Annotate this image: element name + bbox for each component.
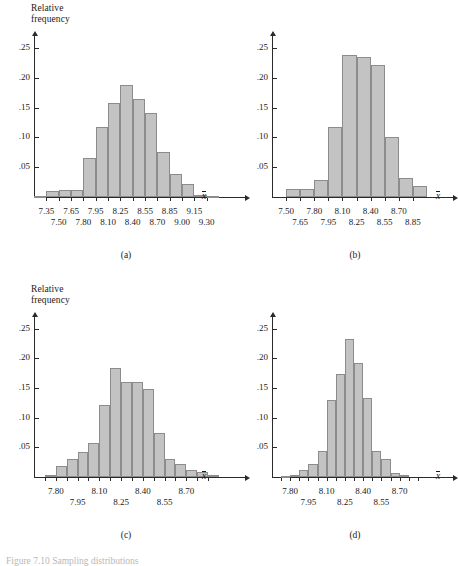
bar-a-14 bbox=[207, 196, 219, 198]
bar-d-10 bbox=[363, 398, 372, 477]
x-tick-b-1 bbox=[300, 198, 301, 201]
x-tick-a-11 bbox=[182, 198, 183, 201]
x-tick-c-8 bbox=[132, 478, 133, 481]
bar-c-14 bbox=[186, 470, 197, 477]
histogram-panel-b: .05.10.15.20.257.507.657.807.958.108.258… bbox=[224, 0, 447, 270]
bar-a-3 bbox=[71, 190, 83, 197]
x-bar-symbol-d: x bbox=[436, 471, 440, 482]
x-axis-variable-label-b: x bbox=[436, 191, 440, 202]
plot-area-b: .05.10.15.20.257.507.657.807.958.108.258… bbox=[224, 0, 447, 270]
x-axis-variable-label-c: x bbox=[202, 471, 206, 482]
bar-d-3 bbox=[299, 470, 308, 477]
y-tick-c-2 bbox=[35, 388, 39, 389]
bar-c-9 bbox=[132, 382, 143, 477]
x-tick-a-7 bbox=[133, 198, 134, 201]
bar-a-2 bbox=[59, 190, 71, 197]
y-tick-label-a-0: .05 bbox=[8, 161, 30, 171]
bar-c-6 bbox=[99, 405, 110, 477]
x-bar-symbol-b: x bbox=[436, 191, 440, 202]
plot-area-c: .05.10.15.20.257.807.958.108.258.408.558… bbox=[0, 281, 224, 543]
x-axis-arrow-b bbox=[453, 195, 458, 201]
x-tick-a-10 bbox=[170, 198, 171, 201]
x-tick-label-top-a-6: 9.15 bbox=[174, 206, 214, 216]
x-tick-label-top-c-2: 8.40 bbox=[123, 486, 163, 496]
plot-area-d: .05.10.15.20.257.807.958.108.258.408.558… bbox=[224, 281, 447, 543]
x-tick-c-3 bbox=[78, 478, 79, 481]
panel-caption-a: (a) bbox=[96, 250, 156, 260]
x-axis-variable-label-a: x bbox=[202, 191, 206, 202]
x-tick-a-5 bbox=[108, 198, 109, 201]
bar-c-5 bbox=[88, 443, 99, 477]
x-tick-a-2 bbox=[71, 198, 72, 201]
bar-a-0 bbox=[34, 196, 46, 198]
bar-d-6 bbox=[327, 400, 336, 477]
bar-a-6 bbox=[108, 103, 120, 197]
bar-c-12 bbox=[165, 459, 176, 477]
panel-caption-b: (b) bbox=[325, 250, 385, 260]
x-tick-b-7 bbox=[385, 198, 386, 201]
x-tick-c-1 bbox=[56, 478, 57, 481]
y-tick-a-0 bbox=[35, 167, 39, 168]
bar-b-9 bbox=[399, 178, 413, 197]
x-tick-d-0 bbox=[281, 478, 282, 481]
y-tick-a-2 bbox=[35, 108, 39, 109]
y-tick-c-4 bbox=[35, 329, 39, 330]
x-tick-a-1 bbox=[59, 198, 60, 201]
x-tick-a-8 bbox=[145, 198, 146, 201]
x-tick-a-3 bbox=[83, 198, 84, 201]
x-tick-label-top-d-2: 8.40 bbox=[343, 486, 383, 496]
x-tick-c-9 bbox=[143, 478, 144, 481]
bar-c-2 bbox=[56, 466, 67, 477]
bar-c-3 bbox=[67, 459, 78, 477]
bar-b-3 bbox=[314, 180, 328, 197]
x-tick-label-bottom-c-1: 8.25 bbox=[101, 497, 141, 507]
y-tick-a-4 bbox=[35, 48, 39, 49]
histogram-panel-d: .05.10.15.20.257.807.958.108.258.408.558… bbox=[224, 281, 447, 543]
x-tick-label-top-d-3: 8.70 bbox=[380, 486, 420, 496]
y-tick-d-3 bbox=[273, 358, 277, 359]
x-tick-a-0 bbox=[46, 198, 47, 201]
x-tick-d-14 bbox=[409, 478, 410, 481]
x-tick-d-7 bbox=[345, 478, 346, 481]
x-tick-d-11 bbox=[381, 478, 382, 481]
y-tick-label-b-2: .15 bbox=[246, 102, 268, 112]
x-tick-b-0 bbox=[286, 198, 287, 201]
y-axis-arrow-b bbox=[270, 31, 276, 36]
y-axis-arrow-a bbox=[32, 31, 38, 36]
bar-b-7 bbox=[371, 65, 385, 197]
x-tick-c-0 bbox=[45, 478, 46, 481]
bar-d-12 bbox=[381, 459, 390, 477]
y-tick-label-d-1: .10 bbox=[246, 412, 268, 422]
y-tick-label-a-4: .25 bbox=[8, 42, 30, 52]
x-tick-c-10 bbox=[154, 478, 155, 481]
x-tick-d-5 bbox=[327, 478, 328, 481]
x-tick-a-12 bbox=[194, 198, 195, 201]
bar-a-10 bbox=[157, 152, 169, 197]
figure-caption-truncated: Figure 7.10 Sampling distributions bbox=[6, 556, 446, 566]
x-tick-label-top-b-4: 8.70 bbox=[379, 206, 419, 216]
y-axis-line-c bbox=[34, 317, 35, 477]
x-tick-d-9 bbox=[363, 478, 364, 481]
x-tick-label-bottom-c-2: 8.55 bbox=[145, 497, 185, 507]
y-axis-line-b bbox=[272, 36, 273, 197]
bar-a-9 bbox=[145, 113, 157, 197]
x-tick-d-15 bbox=[418, 478, 419, 481]
y-tick-label-d-3: .20 bbox=[246, 352, 268, 362]
bar-c-16 bbox=[208, 475, 219, 477]
bar-b-6 bbox=[357, 57, 371, 197]
bar-b-10 bbox=[413, 186, 427, 197]
y-tick-label-c-3: .20 bbox=[8, 352, 30, 362]
y-tick-label-c-1: .10 bbox=[8, 412, 30, 422]
bar-d-5 bbox=[318, 451, 327, 477]
bar-a-8 bbox=[133, 99, 145, 197]
bar-d-13 bbox=[391, 473, 400, 477]
x-tick-a-4 bbox=[96, 198, 97, 201]
y-tick-b-4 bbox=[273, 48, 277, 49]
x-tick-c-13 bbox=[186, 478, 187, 481]
histogram-panel-a: Relative frequency .05.10.15.20.257.357.… bbox=[0, 0, 224, 270]
bar-d-9 bbox=[354, 363, 363, 477]
bar-b-4 bbox=[328, 127, 342, 197]
bar-c-11 bbox=[154, 433, 165, 477]
bar-a-4 bbox=[83, 158, 95, 197]
x-tick-a-6 bbox=[120, 198, 121, 201]
